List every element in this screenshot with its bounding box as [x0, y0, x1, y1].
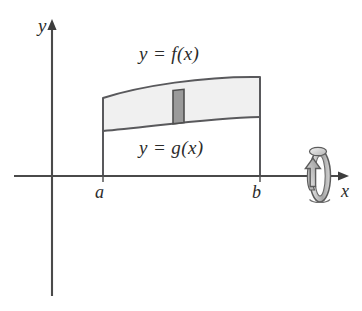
figure-canvas: y = f(x) y = g(x) y x a b	[0, 0, 362, 311]
x-axis-arrowhead	[338, 171, 349, 180]
representative-strip	[173, 89, 184, 124]
revolution-ring-cap	[310, 147, 327, 155]
curve-label-upper: y = f(x)	[139, 44, 199, 63]
x-axis-label: x	[341, 182, 349, 200]
curve-label-lower: y = g(x)	[139, 138, 204, 157]
x-axis	[14, 171, 349, 180]
y-axis	[47, 19, 56, 296]
tick-label-a: a	[95, 183, 104, 201]
y-axis-label: y	[38, 16, 46, 35]
revolution-arrow-icon	[305, 147, 330, 202]
y-axis-arrowhead	[47, 19, 56, 30]
tick-label-b: b	[252, 183, 261, 201]
